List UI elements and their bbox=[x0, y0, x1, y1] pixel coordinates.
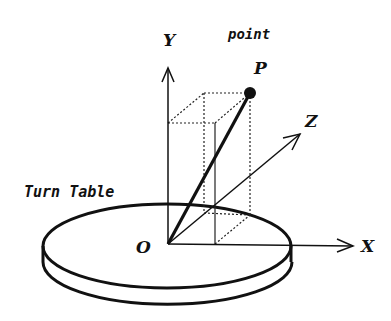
z-axis-label: Z bbox=[304, 111, 318, 131]
point-p-marker bbox=[244, 87, 256, 99]
turn-table-bottom-rim bbox=[43, 262, 292, 304]
turn-table-label: Turn Table bbox=[24, 183, 114, 201]
turn-table-top bbox=[43, 204, 291, 288]
point-caption: point bbox=[227, 26, 270, 42]
diagram-canvas: Y point P Z X O Turn Table bbox=[0, 0, 391, 321]
op-segment bbox=[168, 93, 250, 244]
y-axis-label: Y bbox=[163, 30, 177, 50]
point-p-label: P bbox=[253, 58, 268, 78]
origin-label: O bbox=[136, 237, 151, 257]
box-top-left-edge bbox=[168, 93, 204, 123]
x-axis-label: X bbox=[360, 236, 375, 256]
axes bbox=[162, 68, 353, 252]
box-bottom-right-edge bbox=[215, 215, 250, 244]
x-axis bbox=[168, 244, 353, 246]
coordinate-diagram: Y point P Z X O Turn Table bbox=[0, 0, 391, 321]
box-top-right-edge bbox=[215, 93, 250, 123]
